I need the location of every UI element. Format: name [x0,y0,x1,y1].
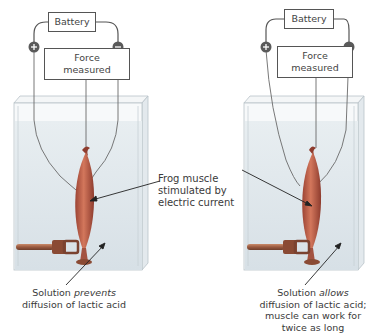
right-caption-line4: twice as long [255,322,371,333]
left-caption: Solution prevents diffusion of lactic ac… [14,287,134,310]
caption-prefix: Solution [277,287,319,298]
right-caption: Solution allows diffusion of lactic acid… [255,287,371,333]
right-caption-line2: diffusion of lactic acid; [255,299,371,311]
measured-text: measured [45,64,129,76]
center-label-line2: stimulated by [158,185,248,197]
left-caption-line2: diffusion of lactic acid [14,299,134,311]
center-label-line3: electric current [158,197,248,209]
caption-emphasis: prevents [74,287,116,298]
right-force-measured-label: Force measured [277,46,353,78]
left-caption-line1: Solution prevents [14,287,134,299]
battery-text: Battery [291,13,326,24]
clipped-title-fragment [0,0,378,3]
right-battery-label: Battery [284,9,334,29]
center-label-line1: Frog muscle [158,173,248,185]
battery-text: Battery [54,16,89,27]
measured-text: measured [278,62,352,74]
force-text: Force [278,50,352,62]
left-positive-terminal-icon [29,42,40,53]
right-caption-line3: muscle can work for [255,310,371,322]
left-battery-label: Battery [48,12,96,32]
right-positive-terminal-icon [261,42,272,53]
caption-emphasis: allows [319,287,349,298]
left-force-measured-label: Force measured [44,48,130,80]
force-text: Force [45,52,129,64]
frog-muscle-label: Frog muscle stimulated by electric curre… [158,173,248,209]
right-caption-line1: Solution allows [255,287,371,299]
caption-prefix: Solution [32,287,74,298]
